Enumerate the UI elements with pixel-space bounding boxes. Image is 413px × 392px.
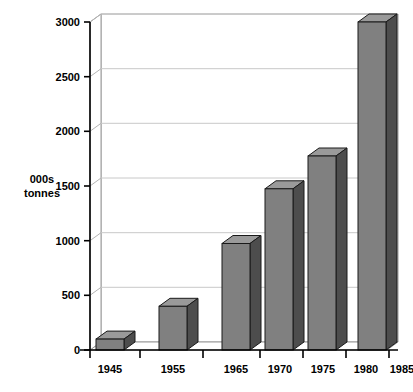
y-axis-title-line-2: tonnes (24, 187, 60, 199)
bar-side-face (386, 14, 397, 350)
y-tick-label-500: 500 (62, 289, 80, 301)
x-label-1955: 1955 (161, 363, 185, 375)
y-axis-title-line-1: 000s (30, 173, 54, 185)
x-label-1980: 1980 (354, 363, 378, 375)
bar-front-face (308, 156, 336, 350)
y-tick-label-3000: 3000 (56, 16, 80, 28)
bar-side-face (250, 236, 261, 351)
x-label-1965: 1965 (224, 363, 248, 375)
bar-1985[interactable] (358, 14, 397, 350)
bar-chart: 3000 2500 2000 1500 1000 500 0 1945 1955… (0, 0, 413, 392)
bar-front-face (358, 22, 386, 350)
bar-front-face (96, 339, 124, 350)
bar-1970[interactable] (265, 181, 304, 350)
bar-front-face (265, 189, 293, 350)
bar-1955[interactable] (159, 298, 198, 350)
bar-1965[interactable] (222, 236, 261, 351)
bar-side-face (187, 298, 198, 350)
x-label-1985: 1985 (390, 363, 413, 375)
bar-front-face (222, 244, 250, 351)
y-tick-label-2500: 2500 (56, 71, 80, 83)
bar-side-face (336, 148, 347, 350)
x-label-1945: 1945 (98, 363, 122, 375)
x-label-1970: 1970 (268, 363, 292, 375)
y-tick-label-1000: 1000 (56, 235, 80, 247)
y-tick-label-2000: 2000 (56, 125, 80, 137)
chart-svg: 3000 2500 2000 1500 1000 500 0 1945 1955… (0, 0, 413, 392)
bar-1975[interactable] (308, 148, 347, 350)
y-tick-label-0: 0 (74, 344, 80, 356)
bar-front-face (159, 306, 187, 350)
x-label-1975: 1975 (311, 363, 335, 375)
bar-side-face (293, 181, 304, 350)
